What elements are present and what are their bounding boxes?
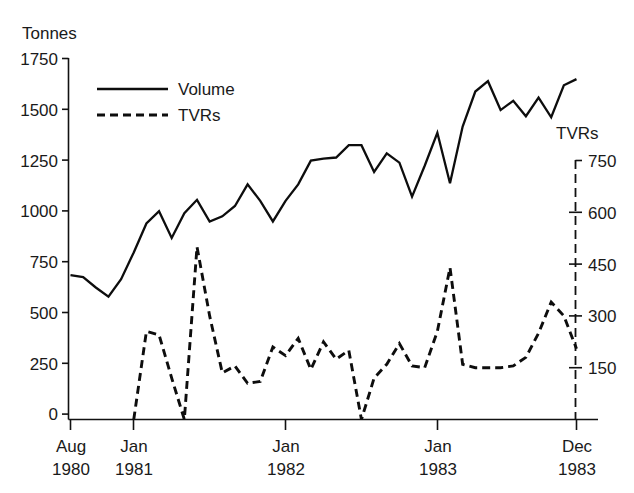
left-axis-ticks [62,59,69,415]
left-tick-750: 750 [30,253,58,272]
legend-label-tvrs: TVRs [178,106,221,125]
line-chart: Tonnes TVRs 1750 1500 1250 1000 750 500 [0,0,634,493]
right-tick-150: 150 [588,359,616,378]
x-label-2-month: Jan [120,437,147,456]
x-label-4-year: 1983 [419,460,457,479]
x-axis-tick-labels: Aug 1980 Jan 1981 Jan 1982 Jan 1983 Dec … [52,437,596,479]
x-label-4-month: Jan [424,437,451,456]
right-tick-450: 450 [588,256,616,275]
x-label-2-year: 1981 [115,460,153,479]
x-label-5-year: 1983 [558,460,596,479]
right-axis-title: TVRs [556,124,599,143]
series-line-volume [71,79,577,297]
x-label-1-year: 1980 [52,460,90,479]
chart-legend: Volume TVRs [97,80,235,125]
right-axis-tick-labels: 750 600 450 300 150 [588,152,616,378]
series-line-tvrs [134,247,577,420]
x-label-3-month: Jan [272,437,299,456]
x-label-1-month: Aug [56,437,86,456]
right-tick-300: 300 [588,307,616,326]
left-tick-500: 500 [30,304,58,323]
left-tick-1500: 1500 [20,101,58,120]
chart-container: Tonnes TVRs 1750 1500 1250 1000 750 500 [0,0,634,493]
x-label-3-year: 1982 [267,460,305,479]
left-tick-250: 250 [30,355,58,374]
right-tick-750: 750 [588,152,616,171]
right-tick-600: 600 [588,204,616,223]
left-axis-tick-labels: 1750 1500 1250 1000 750 500 250 0 [20,50,58,424]
left-tick-0: 0 [49,405,58,424]
x-label-5-month: Dec [562,437,593,456]
left-tick-1250: 1250 [20,152,58,171]
left-axis-title: Tonnes [22,24,77,43]
left-tick-1750: 1750 [20,50,58,69]
legend-label-volume: Volume [178,80,235,99]
left-tick-1000: 1000 [20,202,58,221]
x-axis-ticks [71,420,577,431]
